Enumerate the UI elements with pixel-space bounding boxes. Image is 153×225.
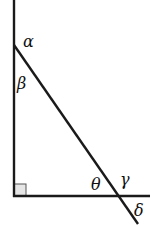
label-alpha: α — [23, 32, 34, 51]
diagram-canvas: α β θ γ δ — [0, 0, 153, 225]
right-angle-marker — [14, 184, 26, 196]
label-delta: δ — [134, 201, 144, 220]
label-theta: θ — [91, 175, 101, 194]
label-beta: β — [16, 74, 26, 93]
label-gamma: γ — [120, 170, 130, 189]
